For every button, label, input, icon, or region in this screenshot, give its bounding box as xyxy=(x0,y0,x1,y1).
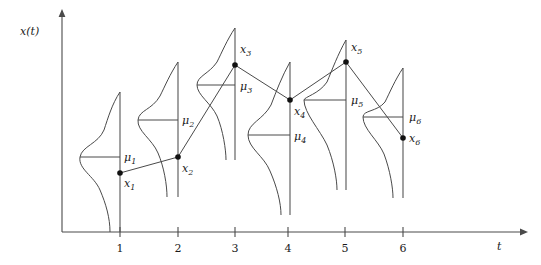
distribution-group-3 xyxy=(197,28,235,160)
distribution-group-2 xyxy=(138,62,178,197)
state-label-x5: x5 xyxy=(351,41,362,56)
state-label-x2: x2 xyxy=(182,162,193,177)
dist-curve-3 xyxy=(197,28,235,160)
state-dot-2 xyxy=(175,154,181,160)
tick-label-5: 5 xyxy=(342,242,349,255)
mean-label-mu1: μ1 xyxy=(124,151,136,166)
mean-label-mu6: μ6 xyxy=(409,111,421,126)
state-dot-5 xyxy=(343,59,349,65)
dist-curve-1 xyxy=(80,92,120,232)
y-axis-label: x(t) xyxy=(20,25,39,38)
distribution-group-5 xyxy=(304,40,346,190)
axes-group xyxy=(59,9,528,235)
mean-label-mu3: μ3 xyxy=(240,80,252,95)
trajectory-group xyxy=(120,62,403,173)
x-axis-label: t xyxy=(497,240,502,253)
state-label-x3: x3 xyxy=(240,43,251,58)
mean-label-mu2: μ2 xyxy=(182,114,194,129)
state-space-figure: x(t) t 1 2 3 4 5 6 x1 x2 x3 x4 x5 x6 μ1 … xyxy=(0,0,541,265)
tick-label-4: 4 xyxy=(285,242,292,255)
state-dot-3 xyxy=(232,62,238,68)
state-label-x4: x4 xyxy=(294,105,305,120)
mean-label-mu5: μ5 xyxy=(351,94,363,109)
dist-curve-5 xyxy=(304,40,346,190)
mean-labels-group: μ1 μ2 μ3 μ4 μ5 μ6 xyxy=(124,80,421,166)
dist-curve-6 xyxy=(363,68,403,198)
trajectory-polyline xyxy=(120,62,403,173)
x-axis-arrow-icon xyxy=(520,229,528,236)
tick-label-3: 3 xyxy=(232,242,239,255)
distribution-group-1 xyxy=(80,92,120,232)
tick-label-1: 1 xyxy=(117,242,124,255)
dist-curve-4 xyxy=(248,62,290,215)
state-dot-4 xyxy=(287,97,293,103)
state-dot-6 xyxy=(400,135,406,141)
tick-label-2: 2 xyxy=(175,242,182,255)
mean-label-mu4: μ4 xyxy=(294,130,306,145)
state-dot-1 xyxy=(117,170,123,176)
diagram-canvas: x(t) t 1 2 3 4 5 6 x1 x2 x3 x4 x5 x6 μ1 … xyxy=(0,0,541,265)
tick-label-6: 6 xyxy=(400,242,407,255)
distribution-group-4 xyxy=(248,62,290,215)
distribution-group-6 xyxy=(363,68,403,198)
dist-curve-2 xyxy=(138,62,178,197)
state-label-x1: x1 xyxy=(124,177,135,192)
y-axis-arrow-icon xyxy=(59,9,66,17)
state-label-x6: x6 xyxy=(409,132,420,147)
